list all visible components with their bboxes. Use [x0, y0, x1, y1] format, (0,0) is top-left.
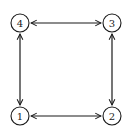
node-2: 2: [103, 107, 121, 125]
node-3-label: 3: [109, 18, 115, 29]
node-2-label: 2: [109, 111, 115, 122]
node-1: 1: [11, 107, 29, 125]
node-3: 3: [103, 14, 121, 32]
graph-diagram: 4 3 1 2: [0, 0, 131, 134]
node-4-label: 4: [17, 18, 23, 29]
node-1-label: 1: [17, 111, 23, 122]
node-4: 4: [11, 14, 29, 32]
